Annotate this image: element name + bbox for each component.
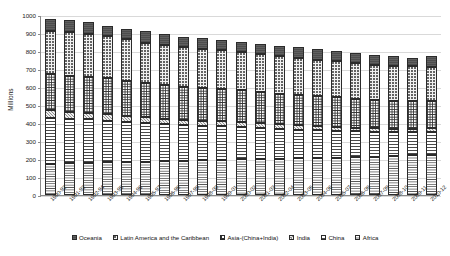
bar-segment — [407, 58, 418, 66]
legend-item-label: Latin America and the Caribbean — [120, 234, 209, 241]
bar-segment — [83, 163, 94, 195]
legend-item[interactable]: Asia-(China+India) — [220, 234, 278, 241]
bar-column[interactable] — [64, 20, 75, 195]
bar-segment — [121, 81, 132, 116]
bar-column[interactable] — [350, 53, 361, 195]
legend-item[interactable]: Oceania — [72, 234, 102, 241]
x-axis-tick-labels: 1990-921991-931992-941993-951994-961995-… — [40, 198, 440, 232]
bar-segment — [255, 128, 266, 159]
bar-segment — [45, 31, 56, 74]
bar-segment — [197, 160, 208, 195]
bar-segment — [331, 131, 342, 158]
y-axis-tick-mark — [38, 196, 41, 197]
legend-item[interactable]: Latin America and the Caribbean — [113, 234, 209, 241]
bar-segment — [331, 51, 342, 61]
bar-column[interactable] — [216, 40, 227, 195]
chart-legend: OceaniaLatin America and the CaribbeanAs… — [0, 234, 450, 241]
bar-column[interactable] — [331, 51, 342, 195]
bar-segment — [45, 164, 56, 196]
bar-column[interactable] — [293, 47, 304, 195]
bar-segment — [388, 132, 399, 156]
bar-segment — [350, 63, 361, 99]
bar-segment — [255, 44, 266, 55]
y-axis-tick-label: 100 — [0, 174, 36, 181]
bar-column[interactable] — [83, 22, 94, 195]
bar-segment — [178, 87, 189, 120]
bar-segment — [121, 162, 132, 195]
bar-column[interactable] — [178, 37, 189, 195]
bar-column[interactable] — [369, 55, 380, 195]
y-axis-tick-label: 900 — [0, 30, 36, 37]
bar-segment — [178, 125, 189, 161]
bar-segment — [140, 31, 151, 43]
swatch-china — [321, 235, 326, 240]
bar-column[interactable] — [159, 34, 170, 195]
plot-area — [40, 16, 440, 196]
legend-item[interactable]: India — [289, 234, 310, 241]
bar-segment — [102, 78, 113, 114]
legend-item[interactable]: China — [321, 234, 344, 241]
bar-segment — [312, 158, 323, 195]
bar-column[interactable] — [236, 42, 247, 195]
legend-item-label: Africa — [363, 234, 379, 241]
bar-column[interactable] — [274, 46, 285, 195]
bar-segment — [83, 77, 94, 113]
bar-segment — [293, 58, 304, 95]
bar-series-group — [41, 15, 441, 195]
bar-segment — [274, 159, 285, 195]
y-axis-tick-label: 1000 — [0, 12, 36, 19]
bar-segment — [369, 65, 380, 100]
bar-segment — [274, 129, 285, 159]
bar-segment — [350, 131, 361, 157]
bar-segment — [293, 130, 304, 159]
bar-segment — [350, 99, 361, 128]
bar-segment — [102, 26, 113, 36]
bar-segment — [274, 46, 285, 57]
bar-segment — [388, 156, 399, 195]
bar-segment — [102, 121, 113, 163]
bar-segment — [236, 127, 247, 159]
bar-segment — [407, 66, 418, 101]
bar-segment — [216, 126, 227, 159]
bar-column[interactable] — [388, 56, 399, 195]
bar-segment — [255, 54, 266, 92]
bar-segment — [293, 95, 304, 125]
bar-column[interactable] — [121, 29, 132, 195]
legend-item-label: India — [297, 234, 310, 241]
bar-segment — [350, 53, 361, 63]
bar-segment — [197, 49, 208, 88]
bar-segment — [102, 162, 113, 195]
bar-segment — [64, 163, 75, 195]
bar-segment — [236, 42, 247, 52]
bar-segment — [407, 155, 418, 195]
bar-segment — [178, 37, 189, 48]
bar-segment — [388, 101, 399, 129]
bar-segment — [407, 101, 418, 129]
bar-column[interactable] — [140, 31, 151, 195]
bar-segment — [407, 132, 418, 155]
bar-segment — [64, 20, 75, 32]
bar-column[interactable] — [197, 38, 208, 195]
bar-segment — [426, 67, 437, 101]
stacked-bar-chart: Millions 0100200300400500600700800900100… — [0, 0, 450, 256]
bar-column[interactable] — [426, 56, 437, 195]
y-axis-tick-label: 600 — [0, 84, 36, 91]
bar-segment — [255, 159, 266, 195]
bar-column[interactable] — [312, 49, 323, 195]
bar-segment — [426, 101, 437, 128]
bar-segment — [140, 162, 151, 195]
bar-column[interactable] — [45, 19, 56, 195]
bar-segment — [426, 56, 437, 66]
bar-segment — [216, 50, 227, 89]
bar-segment — [312, 130, 323, 158]
bar-column[interactable] — [255, 44, 266, 195]
bar-segment — [216, 160, 227, 195]
bar-segment — [426, 155, 437, 196]
legend-item[interactable]: Africa — [355, 234, 378, 241]
swatch-africa — [355, 235, 360, 240]
bar-column[interactable] — [102, 26, 113, 195]
bar-segment — [159, 45, 170, 85]
y-axis-tick-label: 500 — [0, 102, 36, 109]
bar-column[interactable] — [407, 58, 418, 195]
bar-segment — [331, 61, 342, 97]
